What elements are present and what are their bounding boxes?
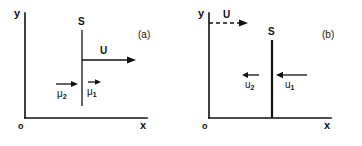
vector-mu2-label-a: μ2: [57, 89, 67, 100]
vector-U-a: [82, 56, 136, 63]
vector-U-b: [209, 20, 248, 27]
x-axis-label-b: x: [324, 120, 330, 131]
panel-b-graphics: [181, 0, 362, 146]
x-axis-label-a: x: [140, 120, 146, 131]
vector-mu2-a: [56, 81, 78, 87]
vector-u2-subscript-b: 2: [251, 84, 255, 91]
vector-U-label-a: U: [100, 46, 107, 56]
vector-mu1-label-a: μ1: [87, 87, 97, 98]
panel-a-graphics: [0, 0, 181, 146]
y-axis-label-b: y: [198, 8, 204, 19]
physics-figure: y x o S U (a) μ2 μ1: [0, 0, 362, 146]
surface-label-b: S: [268, 27, 275, 37]
origin-label-a: o: [18, 122, 24, 131]
y-axis-label-a: y: [14, 8, 20, 19]
surface-label-a: S: [78, 17, 85, 27]
vector-mu2-subscript-a: 2: [63, 93, 67, 100]
vector-mu1-subscript-a: 1: [93, 91, 97, 98]
vector-u1-subscript-b: 1: [291, 84, 295, 91]
panel-label-b: (b): [322, 30, 334, 40]
vector-u2-label-b: u2: [245, 80, 254, 91]
vector-mu1-a: [88, 79, 101, 85]
vector-u1-b: [276, 72, 307, 78]
vector-u2-b: [242, 72, 259, 78]
panel-b: y x o S U (b) u2 u1: [181, 0, 362, 146]
origin-label-b: o: [202, 122, 208, 131]
vector-u1-label-b: u1: [285, 80, 294, 91]
panel-a: y x o S U (a) μ2 μ1: [0, 0, 181, 146]
panel-label-a: (a): [138, 30, 150, 40]
vector-U-label-b: U: [223, 10, 230, 20]
